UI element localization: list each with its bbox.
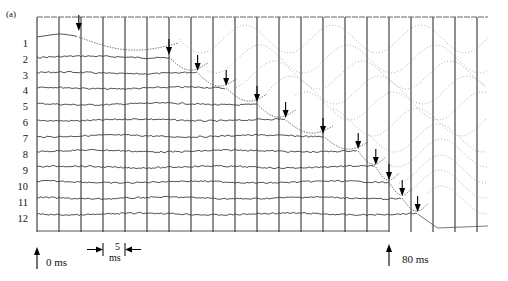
row-label: 2 <box>8 54 28 65</box>
row-label: 9 <box>8 165 28 176</box>
row-label: 10 <box>8 181 28 192</box>
row-label: 6 <box>8 117 28 128</box>
bottom-annotations <box>34 243 392 269</box>
row-label: 12 <box>8 213 28 224</box>
row-label: 7 <box>8 133 28 144</box>
row-label: 1 <box>8 38 28 49</box>
propagation-dots <box>179 25 488 214</box>
row-label: 3 <box>8 70 28 81</box>
panel-label: (a) <box>6 9 16 20</box>
row-label: 8 <box>8 149 28 160</box>
scale-bar-value: 5 <box>115 241 120 252</box>
time-grid <box>37 17 488 232</box>
trace-figure <box>0 0 508 281</box>
end-time-label: 80 ms <box>402 254 429 265</box>
row-label: 5 <box>8 101 28 112</box>
scale-bar-unit: ms <box>109 252 121 263</box>
start-time-label: 0 ms <box>46 257 67 268</box>
traces <box>37 34 488 231</box>
row-label: 11 <box>8 197 28 208</box>
row-label: 4 <box>8 85 28 96</box>
